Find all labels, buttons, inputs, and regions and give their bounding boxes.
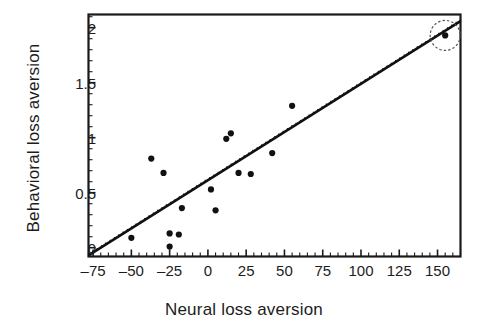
x-tick-label: –25: [157, 262, 182, 279]
plot-canvas: [0, 0, 488, 335]
data-point[interactable]: [148, 156, 154, 162]
x-tick-label: 25: [238, 262, 255, 279]
y-tick-label: 1: [88, 129, 96, 146]
data-point-group: [128, 32, 448, 249]
scatter-plot-figure: Neural loss aversion Behavioral loss ave…: [0, 0, 488, 335]
data-point[interactable]: [269, 150, 275, 156]
y-tick-label: 1.5: [75, 74, 96, 91]
y-tick-label: 2: [88, 19, 96, 36]
data-point[interactable]: [176, 231, 182, 237]
x-tick-label: –75: [81, 262, 106, 279]
data-point[interactable]: [167, 244, 173, 250]
x-tick-label: 125: [387, 262, 412, 279]
data-point[interactable]: [208, 186, 214, 192]
y-axis-title: Behavioral loss aversion: [24, 18, 44, 258]
data-point[interactable]: [160, 170, 166, 176]
x-tick-label: 100: [348, 262, 373, 279]
data-point[interactable]: [289, 103, 295, 109]
x-tick-label: 0: [204, 262, 212, 279]
x-tick-label: –50: [119, 262, 144, 279]
x-tick-label: 75: [314, 262, 331, 279]
regression-line-texture: [89, 19, 461, 256]
data-point[interactable]: [442, 32, 448, 38]
x-tick-label: 50: [276, 262, 293, 279]
data-point[interactable]: [228, 130, 234, 136]
data-point[interactable]: [167, 230, 173, 236]
data-point[interactable]: [235, 170, 241, 176]
data-point[interactable]: [212, 207, 218, 213]
x-axis-title: Neural loss aversion: [0, 300, 488, 320]
data-point[interactable]: [179, 205, 185, 211]
y-tick-label: 0: [88, 239, 96, 256]
data-point[interactable]: [128, 235, 134, 241]
data-point[interactable]: [248, 171, 254, 177]
y-tick-label: 0.5: [75, 184, 96, 201]
data-point[interactable]: [223, 136, 229, 142]
x-tick-label: 150: [425, 262, 450, 279]
